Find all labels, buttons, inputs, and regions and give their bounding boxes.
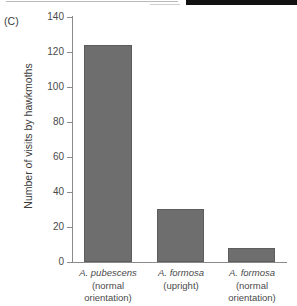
y-axis-spine	[72, 16, 73, 263]
y-tick-label: 0	[58, 257, 64, 267]
y-tick-label: 60	[53, 152, 64, 162]
condition-text: (upright)	[163, 280, 198, 291]
y-tick-label: 120	[47, 47, 64, 57]
y-tick-mark	[67, 157, 72, 158]
y-tick-label: 100	[47, 82, 64, 92]
bar-1	[84, 45, 132, 262]
y-tick-mark	[67, 192, 72, 193]
condition-text: orientation)	[84, 292, 132, 303]
bar-2	[157, 209, 204, 262]
figure-panel-c: (C) 020406080100120140 A. pubescens(norm…	[0, 0, 297, 306]
y-tick-mark	[67, 52, 72, 53]
y-tick-label: 20	[53, 222, 64, 232]
species-name: A. formosa	[158, 267, 204, 278]
panel-label: (C)	[4, 15, 19, 27]
cropped-rule-top-left-secondary	[150, 4, 180, 5]
x-axis-label-3: A. formosa(normalorientation)	[204, 267, 297, 305]
y-tick-label: 40	[53, 187, 64, 197]
condition-text: (normal	[92, 280, 124, 291]
y-tick-mark	[67, 122, 72, 123]
condition-text: (normal	[236, 280, 268, 291]
y-tick-mark	[67, 17, 72, 18]
cropped-rule-top-left	[6, 1, 178, 2]
species-name: A. formosa	[229, 267, 275, 278]
y-tick-label: 140	[47, 12, 64, 22]
y-tick-mark	[67, 262, 72, 263]
y-tick-mark	[67, 227, 72, 228]
condition-text: orientation)	[228, 292, 276, 303]
bar-3	[228, 248, 275, 262]
y-axis-title: Number of visits by hawkmoths	[22, 51, 34, 221]
y-tick-mark	[67, 87, 72, 88]
x-axis-spine	[72, 262, 287, 263]
cropped-black-bar-top-right	[186, 0, 297, 5]
y-tick-label: 80	[53, 117, 64, 127]
species-name: A. pubescens	[79, 267, 137, 278]
